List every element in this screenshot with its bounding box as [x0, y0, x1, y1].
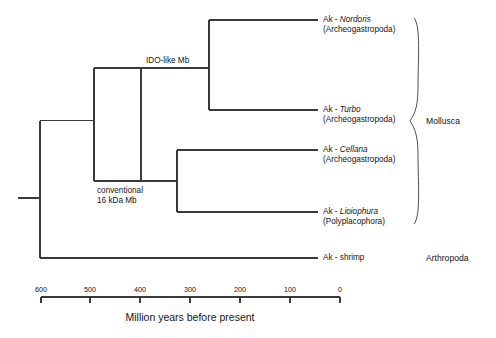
axis-tick-300: 300	[184, 285, 196, 294]
node-label-line1: conventional	[97, 186, 143, 195]
tip-label-shrimp: Ak - shrimp	[323, 253, 364, 263]
tip-label-cellana: Ak - Cellana(Archeogastropoda)	[323, 145, 395, 165]
node-label-line2: 16 kDa Mb	[97, 196, 137, 205]
axis-caption: Million years before present	[126, 311, 255, 323]
axis-tick-200: 200	[234, 285, 246, 294]
tip-prefix: Ak - shrimp	[323, 253, 364, 262]
tip-genus: Lioiophura	[340, 207, 378, 216]
tip-prefix: Ak -	[323, 15, 340, 24]
tip-label-turbo: Ak - Turbo(Archeogastropoda)	[323, 105, 395, 125]
node-label-line1: IDO-like Mb	[146, 56, 189, 65]
tip-genus: Nordoris	[340, 15, 371, 24]
tip-clade: (Archeogastropoda)	[323, 115, 395, 124]
tip-clade: (Polyplacophora)	[323, 217, 385, 226]
mollusca-bracket	[410, 18, 419, 224]
tip-prefix: Ak -	[323, 207, 340, 216]
tip-clade: (Archeogastropoda)	[323, 155, 395, 164]
node-label-ido-like-mb: IDO-like Mb	[146, 56, 189, 66]
tip-genus: Turbo	[340, 105, 361, 114]
axis-tick-0: 0	[338, 285, 342, 294]
tip-clade: (Archeogastropoda)	[323, 25, 395, 34]
axis-tick-600: 600	[35, 285, 47, 294]
axis-tick-400: 400	[134, 285, 146, 294]
tip-label-nordoris: Ak - Nordoris(Archeogastropoda)	[323, 15, 395, 35]
tip-label-lioiophura: Ak - Lioiophura(Polyplacophora)	[323, 207, 385, 227]
time-axis	[41, 297, 340, 303]
tip-prefix: Ak -	[323, 145, 340, 154]
group-label-text: Mollusca	[426, 116, 460, 126]
group-label-text: Arthropoda	[426, 253, 469, 263]
group-label-arthropoda: Arthropoda	[426, 253, 469, 263]
tree-drawing	[0, 0, 496, 338]
axis-tick-100: 100	[284, 285, 296, 294]
figure-canvas: Ak - Nordoris(Archeogastropoda) Ak - Tur…	[0, 0, 496, 338]
axis-tick-500: 500	[84, 285, 96, 294]
group-label-mollusca: Mollusca	[426, 116, 460, 126]
node-label-conventional-mb: conventional16 kDa Mb	[97, 186, 143, 206]
tip-prefix: Ak -	[323, 105, 340, 114]
tip-genus: Cellana	[340, 145, 368, 154]
